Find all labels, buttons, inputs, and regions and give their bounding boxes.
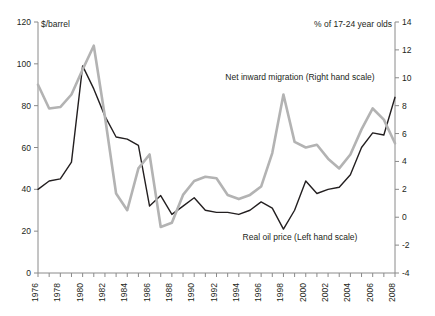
x-axis-tick-label: 2000 — [298, 283, 308, 302]
right-axis-tick-label: 8 — [402, 101, 407, 111]
right-axis-tick-label: 14 — [402, 17, 412, 27]
left-axis-tick-label: 60 — [22, 143, 32, 153]
left-axis-tick-label: 120 — [17, 17, 31, 27]
x-axis-tick-label: 1998 — [275, 283, 285, 302]
right-axis-tick-label: 0 — [402, 212, 407, 222]
x-axis-tick-label: 1986 — [142, 283, 152, 302]
x-axis-tick-label: 2006 — [365, 283, 375, 302]
x-axis-tick-label: 1996 — [253, 283, 263, 302]
right-axis-tick-label: 4 — [402, 156, 407, 166]
chart-container: 020406080100120 -4-202468101214 19761978… — [0, 0, 435, 316]
x-axis-tick-label: 1990 — [186, 283, 196, 302]
left-axis-tick-label: 100 — [17, 59, 31, 69]
migration-series-annotation: Net inward migration (Right hand scale) — [225, 72, 374, 82]
x-axis-tick-label: 1976 — [30, 283, 40, 302]
right-axis-ticks: -4-202468101214 — [395, 17, 412, 278]
left-axis-tick-label: 80 — [22, 101, 32, 111]
left-axis-tick-label: 20 — [22, 226, 32, 236]
left-axis-title: $/barrel — [41, 19, 70, 29]
oil-price-migration-line-chart: 020406080100120 -4-202468101214 19761978… — [0, 0, 435, 316]
right-axis-tick-label: 6 — [402, 129, 407, 139]
left-axis-ticks: 020406080100120 — [17, 17, 38, 278]
oil-price-series-annotation: Real oil price (Left hand scale) — [243, 232, 358, 242]
x-axis-group: 1976197819801982198419861988199019921994… — [30, 273, 397, 302]
right-axis-tick-label: 12 — [402, 45, 412, 55]
left-axis-tick-label: 40 — [22, 184, 32, 194]
left-axis-group: 020406080100120 — [17, 17, 38, 278]
x-axis-tick-label: 1978 — [52, 283, 62, 302]
right-axis-tick-label: -2 — [402, 240, 410, 250]
oil-price-series-line — [38, 66, 395, 229]
right-axis-tick-label: 2 — [402, 184, 407, 194]
right-axis-tick-label: 10 — [402, 73, 412, 83]
x-axis-tick-label: 2002 — [320, 283, 330, 302]
right-axis-title: % of 17-24 year olds — [314, 19, 392, 29]
left-axis-tick-label: 0 — [26, 268, 31, 278]
right-axis-group: -4-202468101214 — [395, 17, 412, 278]
x-axis-tick-labels: 1976197819801982198419861988199019921994… — [30, 283, 397, 302]
x-axis-tick-label: 1992 — [209, 283, 219, 302]
x-axis-tick-label: 1980 — [75, 283, 85, 302]
right-axis-tick-label: -4 — [402, 268, 410, 278]
x-axis-tick-label: 2008 — [387, 283, 397, 302]
x-axis-ticks — [38, 273, 395, 277]
x-axis-tick-label: 1982 — [97, 283, 107, 302]
x-axis-tick-label: 1994 — [231, 283, 241, 302]
x-axis-tick-label: 1988 — [164, 283, 174, 302]
x-axis-tick-label: 2004 — [342, 283, 352, 302]
x-axis-tick-label: 1984 — [119, 283, 129, 302]
